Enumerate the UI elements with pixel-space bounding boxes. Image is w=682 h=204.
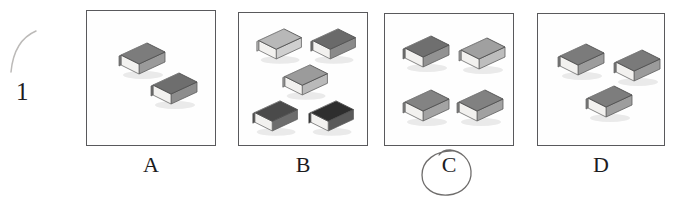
option-panel-a[interactable] xyxy=(86,10,216,146)
book-illustration xyxy=(580,82,634,124)
stray-pencil-mark xyxy=(6,28,46,76)
book-illustration xyxy=(303,97,357,139)
option-letter-d[interactable]: D xyxy=(581,152,621,178)
book-illustration xyxy=(247,97,301,139)
book-illustration xyxy=(145,69,199,111)
book-illustration xyxy=(397,32,451,74)
option-letter-c[interactable]: C xyxy=(429,152,469,178)
option-panel-c[interactable] xyxy=(384,13,514,146)
book-illustration xyxy=(451,86,505,128)
book-illustration xyxy=(453,34,507,76)
option-letter-a[interactable]: A xyxy=(131,152,171,178)
book-illustration xyxy=(552,40,606,82)
worksheet-page: 1 A xyxy=(0,0,682,204)
question-number: 1 xyxy=(16,78,29,106)
option-panel-b[interactable] xyxy=(238,12,368,146)
option-panel-d[interactable] xyxy=(537,13,665,146)
book-illustration xyxy=(397,86,451,128)
option-letter-b[interactable]: B xyxy=(283,152,323,178)
